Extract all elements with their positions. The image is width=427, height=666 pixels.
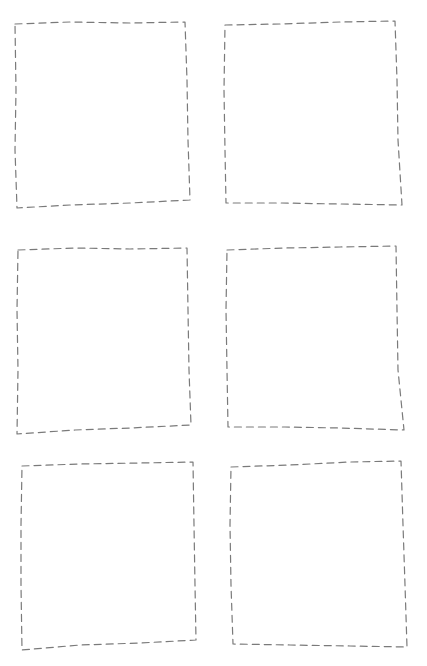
placeholder-box-row2-col2 [226,246,404,430]
placeholder-box-row3-col2 [230,461,407,647]
wireframe-canvas [0,0,427,666]
placeholder-box-row2-col1 [17,248,191,434]
placeholder-box-row3-col1 [21,462,196,650]
placeholder-box-row1-col2 [224,21,402,205]
placeholder-box-row1-col1 [15,22,190,208]
